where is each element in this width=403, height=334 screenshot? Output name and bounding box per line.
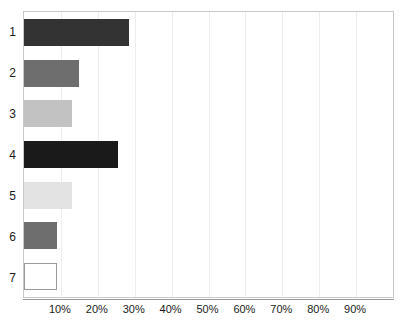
x-tick-label: 40% <box>160 304 182 315</box>
y-tick-label: 4 <box>0 134 22 175</box>
bar-6[interactable] <box>24 222 57 249</box>
bar-slot <box>24 53 393 94</box>
bar-slot <box>24 256 393 297</box>
bar-slot <box>24 93 393 134</box>
bar-slot <box>24 12 393 53</box>
y-tick-label: 1 <box>0 11 22 52</box>
x-tick-label: 60% <box>233 304 255 315</box>
plot-area <box>23 11 394 298</box>
bar-chart: 1234567 10%20%30%40%50%60%70%80%90% <box>0 0 403 334</box>
x-axis: 10%20%30%40%50%60%70%80%90% <box>23 304 394 324</box>
bar-2[interactable] <box>24 60 79 87</box>
bar-slot <box>24 216 393 257</box>
bar-slot <box>24 175 393 216</box>
bar-5[interactable] <box>24 182 72 209</box>
x-tick-label: 80% <box>307 304 329 315</box>
x-axis-line <box>23 299 394 300</box>
x-tick-label: 70% <box>270 304 292 315</box>
y-tick-label: 7 <box>0 257 22 298</box>
y-axis: 1234567 <box>0 11 22 298</box>
bar-4[interactable] <box>24 141 118 168</box>
bar-slot <box>24 134 393 175</box>
x-tick-label: 20% <box>86 304 108 315</box>
x-tick-label: 50% <box>196 304 218 315</box>
bar-7[interactable] <box>24 263 57 290</box>
x-tick-label: 10% <box>49 304 71 315</box>
y-tick-label: 6 <box>0 216 22 257</box>
y-tick-label: 5 <box>0 175 22 216</box>
x-tick-label: 30% <box>123 304 145 315</box>
bar-1[interactable] <box>24 19 129 46</box>
y-tick-label: 2 <box>0 52 22 93</box>
x-tick-label: 90% <box>344 304 366 315</box>
bars-layer <box>24 12 393 297</box>
y-tick-label: 3 <box>0 93 22 134</box>
bar-3[interactable] <box>24 100 72 127</box>
